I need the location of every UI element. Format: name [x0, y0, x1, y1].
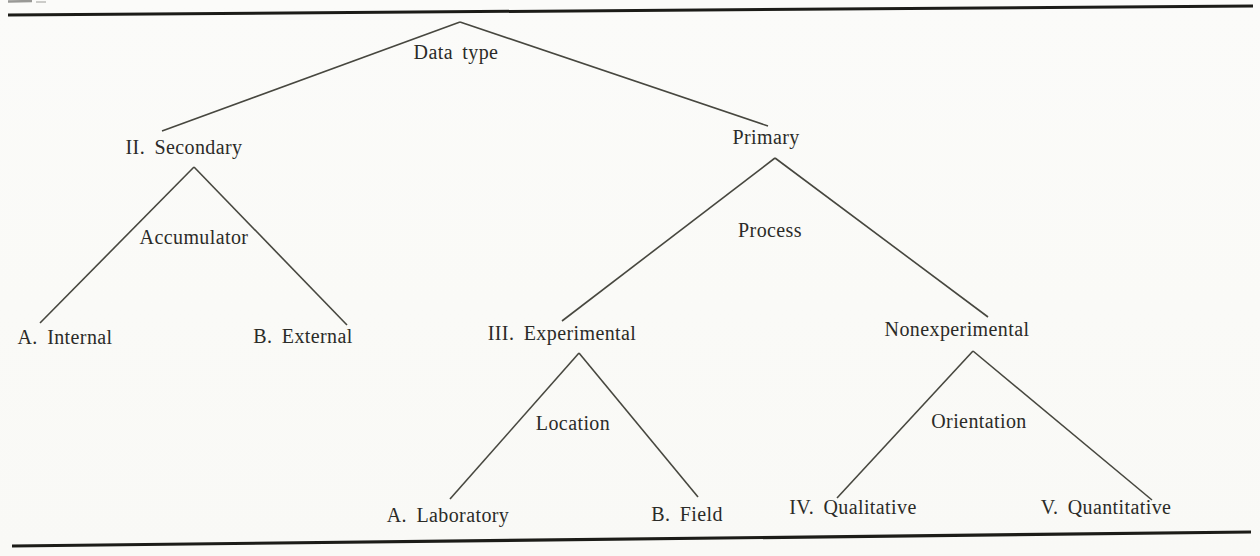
node-experimental: III. Experimental	[488, 323, 637, 344]
split-label-process: Process	[738, 220, 802, 241]
top-rule	[8, 6, 1253, 15]
split-label-orientation: Orientation	[931, 411, 1026, 432]
node-laboratory: A. Laboratory	[387, 505, 510, 526]
scan-artifact	[8, 1, 32, 2]
node-primary: Primary	[732, 127, 799, 148]
node-nonexperimental: Nonexperimental	[885, 319, 1030, 340]
node-internal: A. Internal	[17, 327, 112, 348]
bottom-rule	[12, 532, 1251, 546]
node-data-type: Data type	[414, 42, 499, 63]
scanned-tree-diagram: Data type II. Secondary Primary Accumula…	[0, 0, 1260, 556]
edge-root-to-secondary	[162, 22, 460, 131]
split-label-accumulator: Accumulator	[140, 227, 249, 248]
node-qualitative: IV. Qualitative	[789, 497, 916, 518]
node-quantitative: V. Quantitative	[1041, 497, 1172, 518]
node-external: B. External	[253, 326, 352, 347]
edge-root-to-primary	[460, 22, 768, 126]
edge-primary-to-nonexperimental	[775, 158, 988, 317]
tree-edges-graphic	[0, 0, 1260, 556]
node-field: B. Field	[651, 504, 723, 525]
split-label-location: Location	[536, 413, 610, 434]
node-secondary: II. Secondary	[126, 137, 243, 158]
